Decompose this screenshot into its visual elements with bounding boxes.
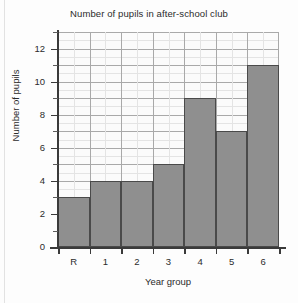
x-axis-line	[50, 247, 286, 249]
y-tick-6	[51, 148, 58, 150]
y-tick-minor-5	[53, 164, 58, 165]
x-tick-label-2: 2	[122, 256, 152, 267]
y-tick-10	[51, 82, 58, 84]
y-tick-0	[51, 247, 58, 249]
x-tick-3	[153, 247, 155, 254]
x-tick-0	[58, 247, 60, 254]
x-tick-1	[90, 247, 92, 254]
y-tick-label-2: 2	[5, 208, 45, 219]
y-tick-2	[51, 214, 58, 216]
y-tick-label-12: 12	[5, 43, 45, 54]
y-tick-label-8: 8	[5, 109, 45, 120]
bar-6	[247, 65, 279, 247]
y-tick-12	[51, 49, 58, 51]
x-axis-label: Year group	[57, 276, 279, 287]
y-tick-4	[51, 181, 58, 183]
y-tick-label-6: 6	[5, 142, 45, 153]
y-axis-line	[57, 30, 59, 249]
y-axis-label: Number of pupils	[10, 61, 21, 151]
y-tick-label-0: 0	[5, 241, 45, 252]
y-tick-minor-1	[53, 231, 58, 232]
chart-title: Number of pupils in after-school club	[0, 8, 298, 19]
x-tick-label-6: 6	[248, 256, 278, 267]
x-tick-4	[184, 247, 186, 254]
y-tick-label-10: 10	[5, 76, 45, 87]
x-tick-label-4: 4	[185, 256, 215, 267]
x-tick-2	[121, 247, 123, 254]
y-tick-minor-11	[53, 65, 58, 66]
chart-page: Number of pupils in after-school club Nu…	[0, 0, 298, 303]
y-tick-minor-7	[53, 131, 58, 132]
y-tick-minor-13	[53, 32, 58, 33]
y-tick-minor-3	[53, 197, 58, 198]
x-tick-label-1: 1	[90, 256, 120, 267]
x-tick-label-R: R	[59, 256, 89, 267]
y-tick-8	[51, 115, 58, 117]
y-tick-label-4: 4	[5, 175, 45, 186]
x-tick-label-5: 5	[217, 256, 247, 267]
x-tick-7	[279, 247, 281, 254]
y-tick-minor-9	[53, 98, 58, 99]
bar-1	[90, 181, 122, 247]
bar-R	[58, 197, 90, 247]
bar-4	[184, 98, 216, 247]
x-tick-5	[216, 247, 218, 254]
bar-2	[121, 181, 153, 247]
bar-series	[58, 32, 279, 247]
x-tick-label-3: 3	[154, 256, 184, 267]
plot-area	[58, 32, 279, 247]
x-tick-6	[247, 247, 249, 254]
bar-5	[216, 131, 248, 247]
bar-3	[153, 164, 185, 247]
